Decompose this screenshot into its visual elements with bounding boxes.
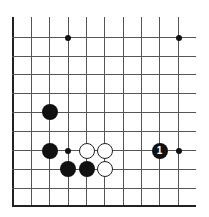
star-point <box>176 35 182 41</box>
grid-line-horizontal <box>12 74 197 75</box>
grid-line-horizontal <box>12 56 197 57</box>
go-board-diagram: 1 <box>0 0 209 217</box>
move-number: 1 <box>157 146 163 156</box>
grid-line-horizontal <box>12 112 197 113</box>
star-point <box>176 148 182 154</box>
grid-line-horizontal <box>12 37 197 38</box>
black-stone <box>42 143 58 159</box>
white-stone <box>97 143 113 159</box>
grid-line-horizontal <box>12 188 197 189</box>
grid-line-horizontal <box>12 131 197 132</box>
star-point <box>65 35 71 41</box>
white-stone <box>97 161 113 177</box>
board-bottom-edge <box>12 205 197 207</box>
black-stone <box>42 104 58 120</box>
black-stone <box>60 161 76 177</box>
star-point <box>65 148 71 154</box>
white-stone <box>79 143 95 159</box>
black-stone: 1 <box>152 143 168 159</box>
grid-line-horizontal <box>12 93 197 94</box>
black-stone <box>79 161 95 177</box>
